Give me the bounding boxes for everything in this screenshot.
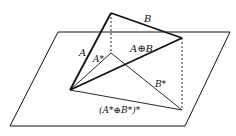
vector-A: [70, 13, 111, 90]
projection-diagram: B A A* A⊕B B* (A*⊕B*)*: [0, 0, 236, 136]
label-A: A: [78, 47, 86, 58]
label-sum-projection: (A*⊕B*)*: [99, 105, 141, 115]
label-A-plus-B: A⊕B: [129, 43, 153, 54]
label-A-star: A*: [92, 54, 104, 64]
vector-A-projection: [70, 53, 111, 90]
label-B: B: [143, 13, 151, 24]
vector-B-projection: [111, 53, 182, 110]
label-B-star: B*: [154, 79, 167, 89]
